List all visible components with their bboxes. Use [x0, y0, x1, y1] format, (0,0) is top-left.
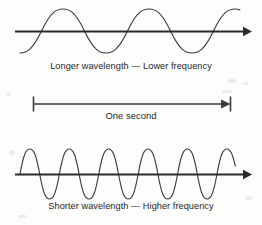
bottom-wave-group — [15, 149, 252, 199]
scale-arrowhead-icon — [221, 100, 231, 109]
wave-frequency-figure: Longer wavelength — Lower frequency One … — [0, 0, 262, 225]
top-axis-arrow-icon — [243, 27, 252, 37]
one-second-caption: One second — [0, 110, 262, 121]
bottom-wave-caption: Shorter wavelength — Higher frequency — [0, 201, 262, 211]
bottom-axis-arrow-icon — [243, 170, 252, 180]
top-wave-group — [15, 9, 252, 53]
top-wave-caption: Longer wavelength — Lower frequency — [0, 61, 262, 71]
